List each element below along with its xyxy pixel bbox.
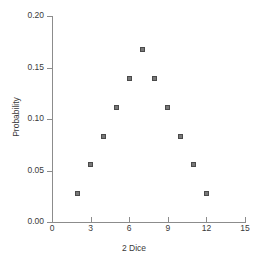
data-point [88, 162, 93, 167]
data-point [140, 47, 145, 52]
y-axis-tick-label: 0.10 [4, 114, 44, 123]
data-point [114, 105, 119, 110]
data-point [191, 162, 196, 167]
x-axis-tick-label: 12 [193, 224, 219, 233]
data-point [204, 191, 209, 196]
data-point [165, 105, 170, 110]
x-axis-tick [245, 217, 246, 222]
x-axis-tick-label: 3 [78, 224, 104, 233]
y-axis-title: Probability [11, 67, 21, 167]
scatter-plot-figure: 0.000.050.100.150.20 03691215 2 Dice Pro… [0, 0, 268, 264]
y-axis-tick-label: 0.20 [4, 11, 44, 20]
data-point [152, 76, 157, 81]
plot-area [52, 16, 245, 222]
x-axis-tick-label: 9 [155, 224, 181, 233]
x-axis-tick-label: 15 [232, 224, 258, 233]
y-axis-tick-label: 0.00 [4, 217, 44, 226]
x-axis-title: 2 Dice [0, 243, 268, 253]
y-axis-tick-label: 0.15 [4, 63, 44, 72]
y-axis-tick-label: 0.05 [4, 166, 44, 175]
x-axis-tick-label: 0 [39, 224, 65, 233]
data-point [178, 134, 183, 139]
data-point [127, 76, 132, 81]
data-point [101, 134, 106, 139]
x-axis-tick-label: 6 [116, 224, 142, 233]
x-axis-line [52, 222, 246, 223]
data-point [75, 191, 80, 196]
